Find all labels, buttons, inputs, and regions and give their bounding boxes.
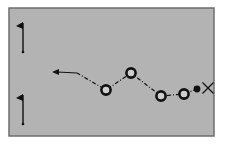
cone-icon — [156, 91, 165, 100]
field — [9, 8, 214, 136]
drill-diagram — [0, 0, 226, 146]
cone-icon — [101, 85, 110, 94]
cone-icon — [179, 89, 188, 98]
ball-icon — [194, 86, 201, 93]
cone-icon — [126, 68, 135, 77]
